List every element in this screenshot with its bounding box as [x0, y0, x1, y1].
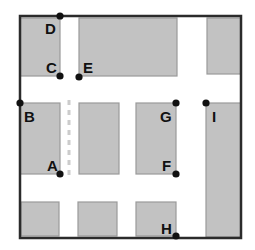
- point-marker-g[interactable]: [172, 99, 179, 106]
- block-bottom-left: [21, 202, 59, 236]
- block-top-right: [207, 18, 241, 74]
- block-mid-center: [79, 103, 119, 174]
- point-label-d: D: [45, 20, 56, 37]
- point-marker-d[interactable]: [56, 12, 63, 19]
- point-marker-c[interactable]: [56, 72, 63, 79]
- point-label-i: I: [212, 108, 216, 125]
- point-marker-i[interactable]: [202, 99, 209, 106]
- point-label-f: F: [162, 157, 171, 174]
- block-bottom-center: [78, 202, 117, 236]
- point-marker-h[interactable]: [172, 232, 179, 239]
- point-marker-e[interactable]: [75, 73, 82, 80]
- point-label-b: B: [24, 108, 35, 125]
- floor-plan-diagram: ABCDEFGHI: [0, 0, 255, 250]
- point-label-a: A: [47, 157, 58, 174]
- point-label-h: H: [161, 220, 172, 237]
- point-marker-f[interactable]: [172, 170, 179, 177]
- point-marker-b[interactable]: [16, 99, 23, 106]
- block-top-center: [79, 18, 177, 76]
- point-label-c: C: [46, 59, 57, 76]
- point-label-g: G: [160, 108, 172, 125]
- plan-canvas: ABCDEFGHI: [0, 0, 255, 250]
- point-label-e: E: [83, 59, 93, 76]
